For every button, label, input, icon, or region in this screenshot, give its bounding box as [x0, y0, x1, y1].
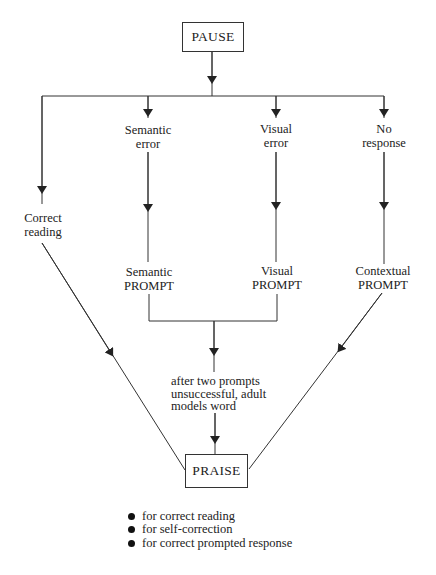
semantic-prompt-label: Semantic PROMPT — [124, 265, 174, 293]
bullet-icon — [128, 526, 135, 533]
pause-label: PAUSE — [191, 29, 234, 45]
visual-error-label: Visual error — [260, 122, 292, 150]
bullet-icon — [128, 540, 135, 547]
list-item: for correct prompted response — [128, 537, 292, 550]
list-item: for correct reading — [128, 510, 292, 523]
list-item: for self-correction — [128, 523, 292, 536]
visual-prompt-label: Visual PROMPT — [252, 264, 302, 292]
praise-node: PRAISE — [185, 454, 248, 488]
fallback-note: after two prompts unsuccessful, adult mo… — [171, 375, 266, 413]
correct-reading-label: Correct reading — [24, 211, 61, 239]
bullet-icon — [128, 513, 135, 520]
praise-reasons-list: for correct reading for self-correction … — [128, 510, 292, 550]
praise-label: PRAISE — [192, 463, 240, 479]
pause-node: PAUSE — [182, 22, 244, 52]
contextual-prompt-label: Contextual PROMPT — [356, 264, 411, 292]
semantic-error-label: Semantic error — [125, 123, 172, 151]
no-response-label: No response — [362, 122, 406, 150]
